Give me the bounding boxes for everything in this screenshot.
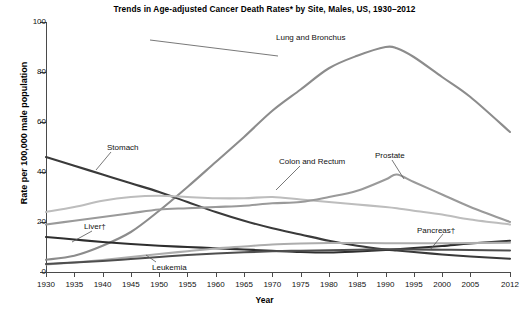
x-tick <box>131 272 132 277</box>
x-tick <box>272 272 273 277</box>
chart-title: Trends in Age-adjusted Cancer Death Rate… <box>0 4 529 14</box>
series-line-leukemia <box>46 249 510 264</box>
x-tick <box>74 272 75 277</box>
x-tick <box>414 272 415 277</box>
x-axis-label: Year <box>0 295 529 305</box>
y-tick-label-20: 20 <box>12 217 46 226</box>
y-tick-label-0: 0 <box>12 267 46 276</box>
series-label-liver: Liver† <box>84 222 106 231</box>
series-label-stomach: Stomach <box>107 143 139 152</box>
x-tick <box>510 272 511 277</box>
series-label-colon-and-rectum: Colon and Rectum <box>279 157 345 166</box>
x-tick <box>470 272 471 277</box>
series-label-lung-and-bronchus: Lung and Bronchus <box>276 33 345 42</box>
series-line-stomach <box>46 157 510 259</box>
annotation-leader <box>96 152 111 170</box>
x-tick-label-2012: 2012 <box>490 280 529 289</box>
x-tick-label-2005: 2005 <box>450 280 490 289</box>
series-label-leukemia: Leukemia <box>152 263 187 272</box>
y-tick-label-80: 80 <box>12 67 46 76</box>
annotation-leader <box>392 160 404 179</box>
x-tick <box>216 272 217 277</box>
x-tick <box>357 272 358 277</box>
chart-page: Trends in Age-adjusted Cancer Death Rate… <box>0 0 529 315</box>
series-layer <box>0 0 529 315</box>
x-tick <box>329 272 330 277</box>
y-tick-label-100: 100 <box>12 17 46 26</box>
x-tick <box>301 272 302 277</box>
annotation-leader <box>430 234 443 250</box>
x-tick <box>442 272 443 277</box>
series-line-liver <box>46 237 510 253</box>
x-tick <box>386 272 387 277</box>
annotation-leader <box>146 255 156 262</box>
x-tick <box>159 272 160 277</box>
x-tick <box>244 272 245 277</box>
y-tick-label-60: 60 <box>12 117 46 126</box>
annotation-leader <box>276 166 300 190</box>
x-tick <box>46 272 47 277</box>
series-label-pancreas: Pancreas† <box>417 226 455 235</box>
series-label-prostate: Prostate <box>375 151 405 160</box>
x-tick <box>187 272 188 277</box>
annotation-leader <box>72 231 92 242</box>
y-axis-ticks: 020406080100 <box>0 0 46 315</box>
series-line-pancreas <box>46 243 510 265</box>
y-tick-label-40: 40 <box>12 167 46 176</box>
series-line-prostate <box>46 174 510 224</box>
y-axis-line <box>46 22 47 273</box>
series-line-colon-and-rectum <box>46 196 510 225</box>
x-tick <box>103 272 104 277</box>
annotation-leader <box>150 40 278 56</box>
